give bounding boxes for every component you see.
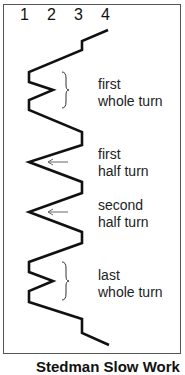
bell-path-line bbox=[29, 30, 109, 345]
label-line: whole turn bbox=[98, 93, 163, 110]
label-line: second bbox=[98, 197, 149, 214]
label-first-half-turn: first half turn bbox=[98, 146, 149, 180]
label-last-whole-turn: last whole turn bbox=[98, 267, 163, 301]
label-line: first bbox=[98, 146, 149, 163]
brace-last-whole-turn-icon bbox=[62, 262, 69, 300]
label-first-whole-turn: first whole turn bbox=[98, 76, 163, 110]
arrow-second-half-turn-icon bbox=[48, 209, 68, 215]
brace-first-whole-turn-icon bbox=[62, 72, 69, 108]
label-line: last bbox=[98, 267, 163, 284]
label-line: half turn bbox=[98, 163, 149, 180]
label-second-half-turn: second half turn bbox=[98, 197, 149, 231]
label-line: whole turn bbox=[98, 284, 163, 301]
label-line: half turn bbox=[98, 214, 149, 231]
arrow-first-half-turn-icon bbox=[48, 159, 68, 165]
label-line: first bbox=[98, 76, 163, 93]
diagram-caption: Stedman Slow Work bbox=[36, 358, 180, 375]
